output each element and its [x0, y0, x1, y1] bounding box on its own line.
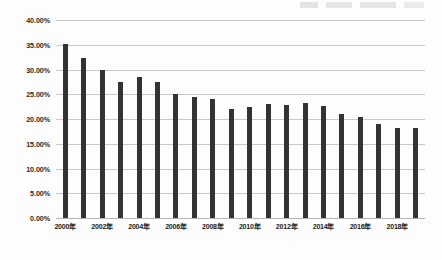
bar	[173, 94, 178, 218]
x-axis-tick-label: 2016年	[350, 221, 372, 231]
y-axis-tick-label: 10.00%	[26, 164, 50, 173]
x-axis-tick-label: 2000年	[54, 221, 76, 231]
bar	[266, 104, 271, 218]
y-axis-labels: 40.00%35.00%30.00%25.00%20.00%15.00%10.0…	[0, 0, 54, 260]
bar	[137, 77, 142, 218]
bar	[321, 106, 326, 218]
y-axis-tick-label: 25.00%	[26, 90, 50, 99]
y-axis-tick-label: 5.00%	[30, 189, 50, 198]
scan-artifact	[300, 2, 430, 8]
bar	[192, 97, 197, 218]
bar	[303, 103, 308, 218]
y-axis-tick-label: 20.00%	[26, 115, 50, 124]
bar	[284, 105, 289, 218]
x-axis-labels: 2000年2002年2004年2006年2008年2010年2012年2014年…	[56, 221, 425, 241]
bar-series	[56, 20, 425, 218]
bar	[376, 124, 381, 218]
bar-chart: 40.00%35.00%30.00%25.00%20.00%15.00%10.0…	[0, 0, 442, 260]
y-axis-tick-label: 35.00%	[26, 40, 50, 49]
bar	[100, 70, 105, 219]
x-axis-tick-label: 2002年	[91, 221, 113, 231]
x-axis-tick-label: 2004年	[128, 221, 150, 231]
bar	[81, 58, 86, 218]
x-axis-tick-label: 2012年	[276, 221, 298, 231]
bar	[229, 109, 234, 218]
bar	[247, 107, 252, 218]
y-axis-tick-label: 15.00%	[26, 139, 50, 148]
bar	[118, 82, 123, 218]
bar	[413, 128, 418, 218]
bar	[155, 82, 160, 218]
x-axis-tick-label: 2010年	[239, 221, 261, 231]
y-axis-tick-label: 40.00%	[26, 16, 50, 25]
bar	[395, 128, 400, 218]
y-axis-tick-label: 30.00%	[26, 65, 50, 74]
bar	[339, 114, 344, 218]
x-axis-tick-label: 2006年	[165, 221, 187, 231]
bar	[358, 117, 363, 218]
plot-area	[56, 20, 425, 218]
x-axis-tick-label: 2008年	[202, 221, 224, 231]
x-axis-tick-label: 2018年	[387, 221, 409, 231]
gridline-000	[56, 218, 425, 219]
x-axis-tick-label: 2014年	[313, 221, 335, 231]
bar	[210, 99, 215, 218]
bar	[63, 44, 68, 218]
y-axis-tick-label: 0.00%	[30, 214, 50, 223]
